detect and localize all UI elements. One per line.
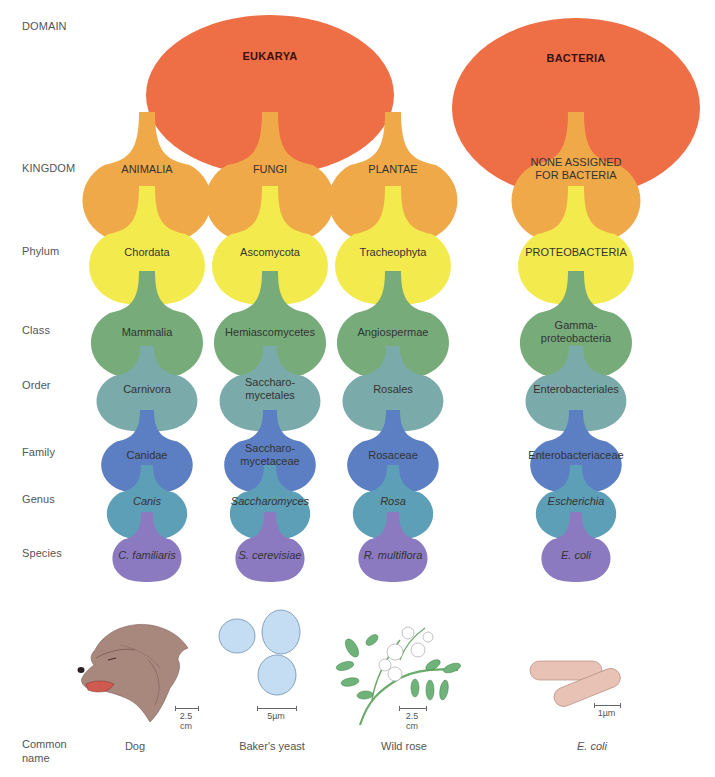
scale-bar-line bbox=[257, 706, 297, 711]
order-label: Carnivora bbox=[123, 383, 171, 396]
scale-bar-label: 1µm bbox=[594, 708, 619, 718]
kingdom-label: FUNGI bbox=[253, 163, 287, 176]
scale-bar: 2.5 cm bbox=[175, 706, 207, 731]
genus-label: Canis bbox=[133, 495, 161, 508]
rank-label-species: Species bbox=[22, 547, 62, 559]
family-label: Canidae bbox=[127, 449, 168, 462]
order-label: Saccharo- mycetales bbox=[245, 376, 295, 402]
family-label: Rosaceae bbox=[368, 449, 418, 462]
scale-bar-line bbox=[594, 703, 621, 708]
phylum-label: Tracheophyta bbox=[360, 246, 427, 259]
common-name-3: E. coli bbox=[577, 740, 607, 752]
scale-bar: 2.5 cm bbox=[399, 706, 435, 731]
genus-label: Rosa bbox=[380, 495, 406, 508]
scale-bar-line bbox=[175, 706, 199, 711]
rank-label-order: Order bbox=[22, 379, 51, 391]
rank-label-class: Class bbox=[22, 324, 50, 336]
class-label: Gamma- proteobacteria bbox=[541, 319, 611, 345]
rank-label-phylum: Phylum bbox=[22, 245, 59, 257]
scale-bar-label: 2.5 cm bbox=[399, 711, 425, 731]
scale-bar-line bbox=[399, 706, 427, 711]
species-label: R. multiflora bbox=[364, 549, 423, 562]
kingdom-label: NONE ASSIGNED FOR BACTERIA bbox=[530, 156, 621, 182]
rank-label-domain: DOMAIN bbox=[22, 20, 67, 32]
kingdom-label: ANIMALIA bbox=[121, 163, 172, 176]
family-label: Saccharo- mycetaceae bbox=[240, 442, 299, 468]
rank-label-genus: Genus bbox=[22, 493, 55, 505]
genus-label: Saccharomyces bbox=[231, 495, 309, 508]
rank-label-family: Family bbox=[22, 446, 55, 458]
scale-bar-label: 5µm bbox=[257, 711, 295, 721]
scale-bar: 1µm bbox=[594, 703, 629, 718]
class-label: Hemiascomycetes bbox=[225, 326, 315, 339]
yeast-illustration bbox=[219, 610, 300, 695]
scale-bar: 5µm bbox=[257, 706, 305, 721]
rank-label-kingdom: KINGDOM bbox=[22, 162, 75, 174]
phylum-label: Chordata bbox=[124, 246, 169, 259]
common-name-0: Dog bbox=[125, 740, 145, 752]
species-label: C. familiaris bbox=[118, 549, 175, 562]
genus-label: Escherichia bbox=[548, 495, 605, 508]
class-label: Angiospermae bbox=[358, 326, 429, 339]
common-name-1: Baker's yeast bbox=[239, 740, 305, 752]
domain-label-eukarya: EUKARYA bbox=[242, 50, 297, 63]
order-label: Enterobacteriales bbox=[533, 383, 619, 396]
phylum-label: PROTEOBACTERIA bbox=[525, 246, 626, 259]
kingdom-label: PLANTAE bbox=[368, 163, 417, 176]
class-label: Mammalia bbox=[122, 326, 173, 339]
order-label: Rosales bbox=[373, 383, 413, 396]
phylum-label: Ascomycota bbox=[240, 246, 300, 259]
common-name-2: Wild rose bbox=[381, 740, 427, 752]
scale-bar-label: 2.5 cm bbox=[175, 711, 197, 731]
common-name-row-label: Common name bbox=[22, 737, 67, 765]
domain-label-bacteria: BACTERIA bbox=[546, 52, 605, 65]
dog-illustration bbox=[78, 624, 189, 722]
family-label: Enterobacteriaceae bbox=[528, 449, 623, 462]
species-label: S. cerevisiae bbox=[239, 549, 302, 562]
species-label: E. coli bbox=[561, 549, 591, 562]
